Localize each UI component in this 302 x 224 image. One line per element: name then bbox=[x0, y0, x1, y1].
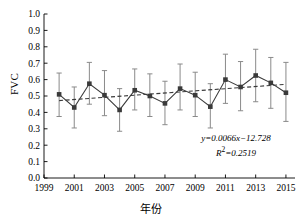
svg-text:2015: 2015 bbox=[276, 183, 295, 193]
svg-text:1999: 1999 bbox=[35, 183, 54, 193]
y-tick-labels: 0.00.10.20.30.40.50.60.70.80.91.0 bbox=[28, 9, 40, 183]
regression-equation: y=0.0066x−12.728 bbox=[176, 132, 296, 144]
regression-annotation: y=0.0066x−12.728 R2=0.2519 bbox=[176, 132, 296, 159]
r-squared: R2=0.2519 bbox=[176, 144, 296, 159]
svg-text:0.2: 0.2 bbox=[28, 141, 40, 151]
svg-text:0.0: 0.0 bbox=[28, 173, 40, 183]
r-squared-value: =0.2519 bbox=[225, 148, 256, 158]
svg-text:2013: 2013 bbox=[246, 183, 265, 193]
x-tick-labels: 199920012003200520072009201120132015 bbox=[35, 183, 296, 193]
error-bars bbox=[57, 49, 289, 131]
svg-text:2009: 2009 bbox=[186, 183, 205, 193]
svg-text:2001: 2001 bbox=[65, 183, 84, 193]
svg-text:2011: 2011 bbox=[216, 183, 235, 193]
svg-text:2003: 2003 bbox=[95, 183, 114, 193]
svg-text:0.4: 0.4 bbox=[28, 108, 40, 118]
svg-text:0.7: 0.7 bbox=[28, 59, 40, 69]
svg-text:0.9: 0.9 bbox=[28, 26, 40, 36]
svg-text:2005: 2005 bbox=[125, 183, 144, 193]
svg-text:0.5: 0.5 bbox=[28, 91, 40, 101]
svg-text:1.0: 1.0 bbox=[28, 9, 40, 19]
fvc-trend-chart: 199920012003200520072009201120132015 0.0… bbox=[0, 0, 302, 224]
svg-text:0.3: 0.3 bbox=[28, 124, 40, 134]
svg-text:2007: 2007 bbox=[155, 183, 174, 193]
chart-plot-area: 199920012003200520072009201120132015 0.0… bbox=[0, 0, 302, 224]
x-axis-label: 年份 bbox=[0, 200, 302, 216]
y-axis-label: FVC bbox=[8, 58, 20, 110]
svg-text:0.1: 0.1 bbox=[28, 157, 40, 167]
svg-text:0.8: 0.8 bbox=[28, 42, 40, 52]
svg-text:0.6: 0.6 bbox=[28, 75, 40, 85]
